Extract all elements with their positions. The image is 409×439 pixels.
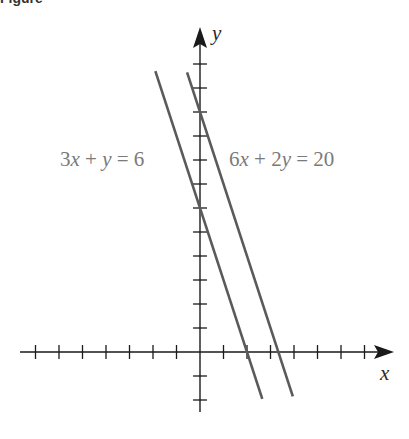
eq2-coef: 6 [229, 147, 240, 171]
eq2-op: + 2 [249, 147, 282, 171]
y-axis-label: y [210, 21, 222, 45]
eq1-coef: 3 [60, 147, 71, 171]
eq1-rhs: = 6 [112, 147, 145, 171]
coordinate-plane: x y 3x + y = 6 6x + 2y = 20 [0, 0, 409, 439]
x-axis-label: x [379, 361, 390, 385]
equation-label-1: 3x + y = 6 [60, 147, 144, 171]
line-3x-plus-y-eq-6 [155, 71, 262, 399]
eq1-op: + [80, 147, 102, 171]
equation-label-2: 6x + 2y = 20 [229, 147, 334, 171]
eq1-y: y [100, 147, 112, 171]
eq2-rhs: = 20 [291, 147, 334, 171]
eq2-y: y [280, 147, 292, 171]
line-6x-plus-2y-eq-20 [187, 72, 293, 396]
